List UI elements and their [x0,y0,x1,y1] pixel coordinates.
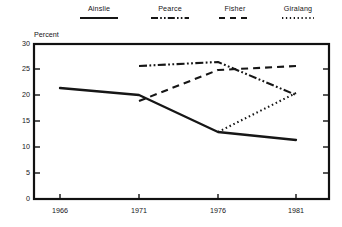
series-pearce-line [139,62,296,95]
plot-frame [34,44,329,199]
series-fisher-line [139,66,296,101]
line-chart-figure: Ainslie Pearce Fisher Giralang Percent 3… [0,0,342,227]
series-ainslie-line [60,88,296,140]
plot-canvas [0,0,342,227]
series-giralang-line [218,93,296,132]
y-axis-ticks [34,69,329,173]
